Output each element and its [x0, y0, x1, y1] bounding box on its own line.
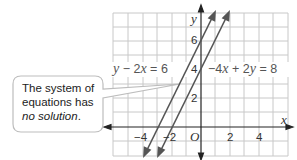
x-tick-neg2: −2: [163, 131, 176, 143]
x-axis-label: x: [281, 113, 287, 126]
equation-label-right: −4x + 2y = 8: [207, 62, 278, 76]
y-tick-6: 6: [191, 34, 197, 46]
x-tick-2: 2: [227, 131, 233, 143]
callout-emphasis: no solution: [22, 110, 78, 122]
x-tick-4: 4: [256, 131, 262, 143]
eq-left-rest: = 6: [147, 62, 168, 76]
callout-suffix: .: [78, 110, 81, 122]
coordinate-graph: [0, 0, 297, 160]
y-axis-label: y: [191, 12, 197, 25]
y-tick-4: 4: [191, 63, 197, 75]
eq-right-op: + 2: [228, 62, 249, 76]
eq-left-op: − 2: [119, 62, 140, 76]
eq-right-prefix: −4: [208, 62, 222, 76]
callout-line-1: The system of: [22, 81, 106, 95]
eq-right-rest: = 8: [256, 62, 277, 76]
callout-line-2: equations has: [22, 95, 106, 109]
y-tick-2: 2: [191, 92, 197, 104]
callout-text: The system of equations has no solution.: [22, 81, 106, 123]
x-tick-neg4: −4: [134, 131, 147, 143]
callout-line-3: no solution.: [22, 109, 106, 123]
equation-label-left: y − 2x = 6: [112, 62, 169, 76]
origin-label: O: [190, 130, 199, 143]
